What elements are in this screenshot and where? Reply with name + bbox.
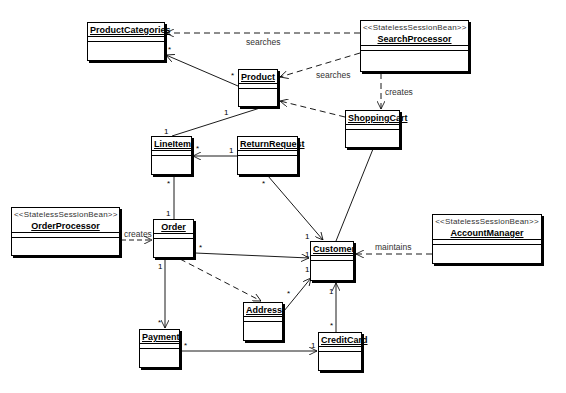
mult: * [287,289,290,298]
class-payment[interactable]: Payment [139,329,180,368]
label-searches-product: searches [316,70,351,80]
attributes-compartment [319,347,361,352]
class-product-categories[interactable]: ProductCategories [87,22,165,61]
attributes-compartment [154,234,193,239]
mult: * [199,243,202,252]
class-name: AccountManager [435,227,539,239]
attributes-compartment [244,317,282,322]
mult: * [231,71,234,80]
class-name: ReturnRequest [240,138,295,150]
mult: * [167,179,170,188]
assoc-order-customer [195,253,309,258]
mult: 1 [166,209,171,218]
mult: 1 [305,232,310,241]
class-return-request[interactable]: ReturnRequest [237,136,298,175]
class-name: CreditCard [321,334,359,346]
label-maintains: maintains [375,242,411,252]
class-name: OrderProcessor [14,220,117,232]
mult: * [196,144,199,153]
mult: 1 [311,341,316,350]
class-name: ProductCategories [90,24,162,36]
attributes-compartment [88,37,164,42]
class-name: LineItem [154,138,189,150]
attributes-compartment [238,151,297,156]
attributes-compartment [12,233,119,238]
assoc-product-lineitem [172,108,260,136]
relationship-lines: searches searches creates creates mainta… [0,0,566,393]
class-shopping-cart[interactable]: ShoppingCart [345,110,400,148]
label-creates-order: creates [124,229,152,239]
mult: * [184,341,187,350]
attributes-compartment [361,46,468,51]
assoc-product-categories [166,55,238,86]
mult: * [330,321,333,330]
stereotype-label: <<StatelessSessionBean>> [363,22,466,33]
class-name: ShoppingCart [348,112,397,124]
uml-class-diagram: searches searches creates creates mainta… [0,0,566,393]
dep-cart-product [280,101,345,117]
attributes-compartment [433,240,541,245]
class-product[interactable]: Product [238,69,278,107]
mult: 1 [329,287,334,296]
class-name: SearchProcessor [363,33,466,45]
class-order-processor[interactable]: <<StatelessSessionBean>> OrderProcessor [11,207,120,256]
mult: * [158,318,161,327]
stereotype-label: <<StatelessSessionBean>> [14,209,117,220]
attributes-compartment [311,256,353,261]
attributes-compartment [239,84,277,89]
attributes-compartment [346,125,399,130]
label-creates-cart: creates [385,87,413,97]
class-search-processor[interactable]: <<StatelessSessionBean>> SearchProcessor [360,20,469,72]
assoc-return-customer [268,176,323,240]
mult: * [168,45,171,54]
mult: 1 [158,262,163,271]
class-customer[interactable]: Customer [310,241,354,281]
class-name: Payment [142,331,177,343]
class-address[interactable]: Address [243,302,283,341]
class-name: Product [241,71,275,83]
class-name: Order [156,221,191,233]
stereotype-label: <<StatelessSessionBean>> [435,216,539,227]
mult: * [262,179,265,188]
label-searches-categories: searches [246,37,281,47]
mult: 1 [224,108,229,117]
attributes-compartment [140,344,179,349]
class-line-item[interactable]: LineItem [151,136,192,175]
class-account-manager[interactable]: <<StatelessSessionBean>> AccountManager [432,214,542,264]
class-name: Customer [313,243,351,255]
class-name: Address [246,304,280,316]
assoc-cart-customer [336,149,373,241]
dep-order-address [180,259,261,301]
mult: 1 [229,146,234,155]
mult: 1 [164,127,169,136]
class-credit-card[interactable]: CreditCard [318,332,362,371]
class-order[interactable]: Order [153,219,194,258]
attributes-compartment [152,151,191,156]
